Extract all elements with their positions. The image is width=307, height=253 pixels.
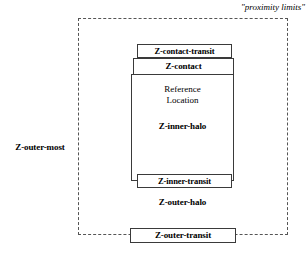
reference-location-line-1: Reference — [131, 84, 234, 95]
reference-location-line-2: Location — [131, 95, 234, 106]
contact-transit-plate: Z-contact-transit — [137, 44, 232, 58]
zone-label-outer-transit: Z-outer-transit — [155, 231, 211, 240]
contact-band-box: Z-contact — [133, 58, 234, 75]
outer-transit-plate: Z-outer-transit — [130, 228, 236, 243]
proximity-limits-annotation: "proximity limits" — [208, 3, 305, 12]
zone-label-contact-transit: Z-contact-transit — [154, 47, 214, 56]
zone-label-outer-most: Z-outer-most — [4, 143, 76, 152]
proximity-zones-diagram: "proximity limits" Z-outer-most Z-contac… — [0, 0, 307, 253]
reference-location-text: Reference Location — [131, 84, 234, 106]
zone-label-inner-halo: Z-inner-halo — [131, 122, 234, 131]
zone-label-contact: Z-contact — [165, 62, 201, 71]
inner-transit-plate: Z-inner-transit — [137, 174, 232, 188]
zone-label-outer-halo: Z-outer-halo — [131, 198, 234, 207]
zone-label-inner-transit: Z-inner-transit — [158, 177, 211, 186]
